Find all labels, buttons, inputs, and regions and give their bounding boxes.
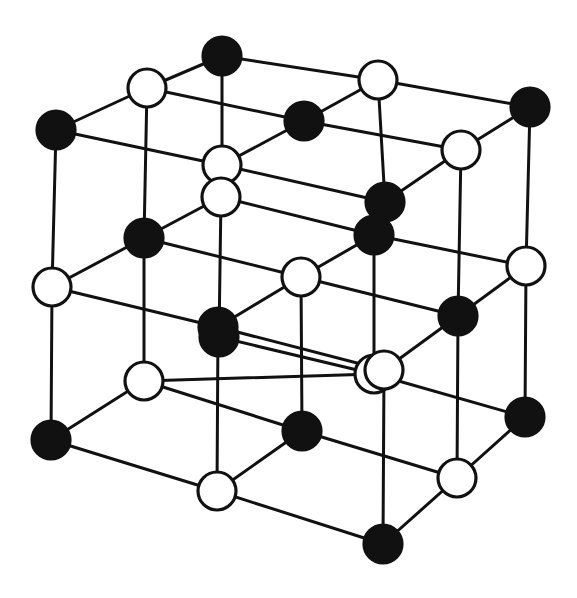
bond-line	[144, 88, 147, 238]
light-atom	[282, 258, 320, 296]
dark-atom	[203, 37, 241, 75]
bond-line	[221, 197, 374, 235]
bond-line	[144, 374, 374, 381]
bond-line	[52, 287, 218, 327]
light-atom	[33, 268, 71, 306]
light-atom	[507, 247, 545, 285]
light-atom	[365, 351, 403, 389]
bond-line	[374, 235, 526, 266]
light-atom	[438, 459, 476, 497]
bond-line	[301, 277, 302, 431]
dark-atom	[32, 421, 70, 459]
bond-line	[302, 431, 457, 478]
light-atom	[359, 61, 397, 99]
dark-atom	[506, 398, 544, 436]
bond-line	[147, 88, 304, 121]
bond-line	[378, 80, 530, 107]
light-atom	[125, 362, 163, 400]
dark-atom	[37, 111, 75, 149]
dark-atom	[364, 525, 402, 563]
dark-atom	[125, 219, 163, 257]
light-atom	[128, 69, 166, 107]
dark-atom	[511, 88, 549, 126]
bond-line	[222, 56, 378, 80]
bond-line	[144, 238, 301, 277]
light-atom	[442, 131, 480, 169]
dark-atom	[439, 297, 477, 335]
bond-line	[526, 107, 530, 266]
dark-atom	[355, 216, 393, 254]
bond-line	[458, 150, 461, 316]
bond-line	[219, 337, 374, 374]
dark-atom	[200, 318, 238, 356]
bond-line	[56, 130, 222, 165]
bond-line	[51, 287, 52, 440]
light-atom	[202, 178, 240, 216]
dark-atom	[285, 102, 323, 140]
crystal-lattice-diagram: Crystal lattice (rock-salt structure) ex…	[0, 0, 577, 598]
bond-line	[301, 277, 458, 316]
bond-line	[51, 440, 217, 491]
bond-line	[144, 381, 302, 431]
bond-line	[222, 165, 385, 202]
bond-line	[52, 130, 56, 287]
bond-line	[217, 491, 383, 544]
dark-atom	[283, 412, 321, 450]
light-atom	[198, 472, 236, 510]
bond-line	[525, 266, 526, 417]
